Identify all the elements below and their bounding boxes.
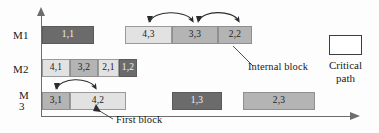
task-block-2-1[interactable]: 2,1 — [98, 59, 119, 77]
task-block-3-3[interactable]: 3,3 — [172, 26, 218, 44]
row-label-m2: M2 — [13, 64, 29, 75]
legend-swatch-critical-path — [329, 35, 362, 55]
task-block-4-1[interactable]: 4,1 — [42, 59, 70, 77]
swap-arrow-m1-a — [150, 13, 192, 22]
row-label-m3: M 3 — [19, 90, 29, 112]
task-block-3-2[interactable]: 3,2 — [70, 59, 98, 77]
row-label-m1: M1 — [13, 30, 29, 41]
swap-arrow-m3 — [54, 80, 95, 90]
right-arrow-icon — [350, 112, 360, 120]
annotation-internal-block: Internal block — [248, 61, 308, 73]
swap-arrow-m1-b-tail — [196, 16, 202, 23]
task-block-1-2[interactable]: 1,2 — [119, 59, 137, 77]
task-block-1-3[interactable]: 1,3 — [172, 92, 222, 110]
legend-label-critical-path: Critical path — [322, 59, 369, 85]
task-block-2-2[interactable]: 2,2 — [218, 26, 252, 44]
up-arrow-icon — [37, 7, 45, 16]
swap-arrow-m1-b — [199, 13, 238, 21]
task-block-1-1[interactable]: 1,1 — [42, 26, 94, 44]
task-block-2-3[interactable]: 2,3 — [243, 92, 315, 110]
swap-arrow-m1-a-tail — [147, 16, 153, 23]
annotation-first-block: First block — [116, 114, 162, 126]
x-axis — [41, 116, 352, 117]
task-block-4-3[interactable]: 4,3 — [125, 26, 172, 44]
task-block-3-1[interactable]: 3,1 — [42, 92, 70, 110]
gantt-diagram: M1 M2 M 3 1,1 4,3 3,3 2,2 4,1 3,2 2,1 1,… — [0, 0, 379, 133]
task-block-4-2[interactable]: 4,2 — [70, 92, 126, 110]
